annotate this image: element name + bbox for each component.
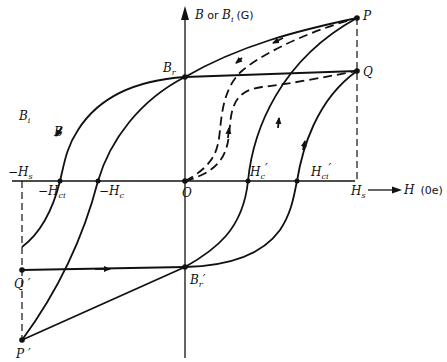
label-neg-hc: −Hc xyxy=(99,184,125,200)
point-q-prime xyxy=(19,267,25,273)
point-br-prime xyxy=(182,264,188,270)
point-o xyxy=(182,178,188,184)
axes xyxy=(12,6,402,358)
h-axis-label: H(0e) xyxy=(403,183,443,197)
h-arrow-icon xyxy=(392,187,402,194)
label-p-prime: P ′ xyxy=(15,347,31,361)
label-neg-hs: −Hs xyxy=(8,165,33,181)
arrow-initial-icon xyxy=(236,58,242,63)
hysteresis-diagram: B or Bi(G) H(0e) P Q Br O Br′ Q ′ P ′ Bi… xyxy=(0,0,447,362)
label-curve-b: B xyxy=(53,125,63,139)
point-neg-hci xyxy=(58,179,63,184)
point-hci-prime xyxy=(295,179,300,184)
point-q xyxy=(354,68,360,74)
arrow-initial-up-icon xyxy=(228,128,229,138)
point-p xyxy=(354,15,360,21)
arrow-b-up-icon xyxy=(278,118,279,128)
label-br: Br xyxy=(162,61,177,77)
point-p-prime xyxy=(19,337,25,343)
label-p: P xyxy=(362,9,372,23)
b-axis-label: B or Bi(G) xyxy=(194,8,254,24)
label-hc-prime: Hc′ xyxy=(249,162,268,181)
label-q-prime: Q ′ xyxy=(14,277,31,291)
point-br xyxy=(182,74,188,80)
label-br-prime: Br′ xyxy=(189,273,206,289)
label-hci-prime: Hci′ xyxy=(310,162,332,181)
bi-descending-branch xyxy=(22,71,357,247)
point-neg-hc xyxy=(96,179,101,184)
label-neg-hci: −Hci xyxy=(38,184,66,200)
label-q: Q xyxy=(363,65,373,79)
label-o: O xyxy=(182,186,192,200)
b-axis-arrow-icon xyxy=(181,6,189,20)
bi-ascending-branch xyxy=(22,71,357,270)
point-hc-prime xyxy=(246,179,251,184)
label-curve-bi: Bi xyxy=(18,109,31,125)
initial-b-curve xyxy=(185,18,357,181)
label-hs: Hs xyxy=(350,184,366,200)
